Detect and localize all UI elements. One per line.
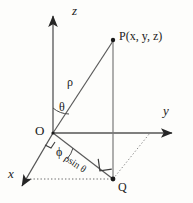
origin-marker [51, 131, 54, 134]
rho-line [53, 41, 113, 133]
z-axis-label: z [72, 4, 77, 17]
theta-angle-label: θ [59, 101, 65, 113]
x-axis-label: x [8, 167, 14, 180]
diagram-canvas [0, 0, 193, 203]
x-axis-line [22, 133, 53, 186]
phi-angle-label: ϕ [56, 146, 62, 158]
point-p-marker [111, 38, 115, 42]
rho-label: ρ [67, 76, 73, 88]
spherical-coordinates-diagram: z y x O P(x, y, z) Q ρ ρsin θ θ ϕ [0, 0, 193, 203]
y-axis-label: y [163, 104, 169, 117]
origin-label: O [35, 124, 44, 137]
point-p-label: P(x, y, z) [119, 30, 162, 42]
q-to-y-dotted-line [113, 133, 150, 179]
point-q-marker [111, 177, 116, 182]
point-q-label: Q [118, 181, 127, 193]
